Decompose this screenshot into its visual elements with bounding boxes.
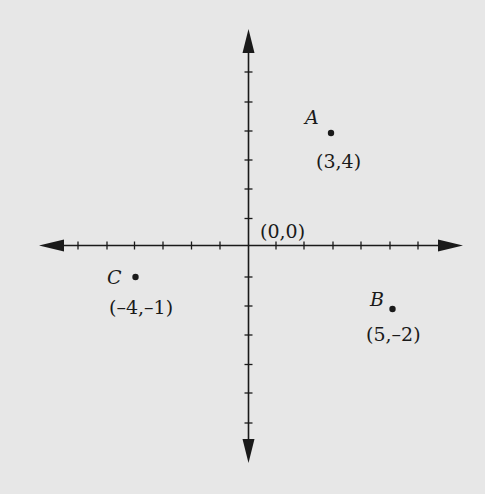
x-axis-right-arrow-icon [438, 240, 463, 252]
y-axis-up-arrow-icon [243, 29, 255, 53]
point-c: C (–4,–1) [107, 266, 173, 318]
point-c-dot [132, 274, 138, 280]
point-b-dot [389, 306, 395, 312]
point-c-coords: (–4,–1) [109, 296, 173, 318]
point-a-coords: (3,4) [316, 150, 361, 172]
point-c-name: C [107, 266, 122, 288]
coordinate-plane: (0,0) A (3,4) B (5,–2) C (–4,–1) [0, 0, 485, 494]
point-b-name: B [369, 288, 384, 310]
point-a: A (3,4) [303, 106, 361, 172]
x-axis-left-arrow-icon [39, 240, 64, 252]
origin-label: (0,0) [260, 220, 305, 242]
point-b: B (5,–2) [366, 288, 421, 345]
point-b-coords: (5,–2) [366, 323, 421, 345]
x-axis [39, 240, 463, 252]
y-axis-down-arrow-icon [243, 439, 255, 463]
point-a-dot [328, 130, 334, 136]
point-a-name: A [303, 106, 319, 128]
